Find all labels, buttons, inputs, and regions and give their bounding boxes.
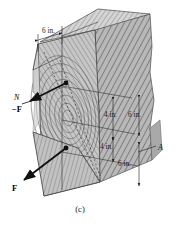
dimension-label-right-lower: 6 in. — [118, 160, 131, 168]
dimension-label-lower-depth: 4 in. — [100, 143, 113, 151]
figure-caption: (c) — [75, 204, 85, 214]
block-front-face — [95, 14, 154, 182]
force-negative-label: −F — [12, 105, 22, 114]
figure-container: 6 in. 4 in. 6 in. 4 in. 6 in. A — [0, 0, 176, 226]
point-a-label: A — [157, 143, 163, 152]
dimension-label-upper-depth: 4 in. — [104, 111, 117, 119]
dimension-label-right-upper: 6 in. — [128, 111, 141, 119]
dimension-label-top-width: 6 in. — [42, 27, 55, 35]
force-positive-label: F — [12, 184, 17, 193]
normal-axis-label: N — [13, 93, 20, 102]
block-right-edge — [150, 120, 162, 160]
wood-block-force-diagram-svg: 6 in. 4 in. 6 in. 4 in. 6 in. A — [0, 0, 176, 226]
